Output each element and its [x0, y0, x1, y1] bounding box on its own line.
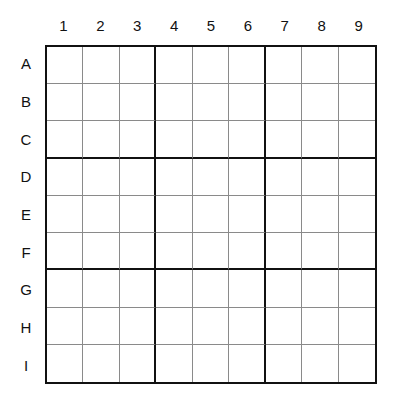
- grid-cell-A2[interactable]: [83, 47, 119, 84]
- grid-cell-I9[interactable]: [339, 345, 375, 382]
- row-label: I: [12, 346, 40, 384]
- grid-cell-D4[interactable]: [156, 159, 192, 196]
- grid-cell-H1[interactable]: [47, 308, 83, 345]
- grid-cell-F2[interactable]: [83, 233, 119, 270]
- column-labels: 123456789: [45, 14, 377, 38]
- grid-cell-I6[interactable]: [229, 345, 265, 382]
- grid-cell-B1[interactable]: [47, 84, 83, 121]
- grid-cell-F7[interactable]: [266, 233, 302, 270]
- grid-cell-C1[interactable]: [47, 121, 83, 158]
- column-label: 9: [340, 14, 377, 38]
- column-label: 8: [303, 14, 340, 38]
- column-label: 6: [229, 14, 266, 38]
- grid-cell-D5[interactable]: [193, 159, 229, 196]
- grid-cell-G4[interactable]: [156, 270, 192, 307]
- grid-cell-A6[interactable]: [229, 47, 265, 84]
- grid-cell-C6[interactable]: [229, 121, 265, 158]
- grid-cell-E5[interactable]: [193, 196, 229, 233]
- row-label: D: [12, 158, 40, 196]
- grid-cell-G6[interactable]: [229, 270, 265, 307]
- grid-cell-H9[interactable]: [339, 308, 375, 345]
- grid-cell-F9[interactable]: [339, 233, 375, 270]
- grid-cell-D7[interactable]: [266, 159, 302, 196]
- grid-cell-I4[interactable]: [156, 345, 192, 382]
- row-label: F: [12, 233, 40, 271]
- grid-cell-E2[interactable]: [83, 196, 119, 233]
- grid-cell-A8[interactable]: [302, 47, 338, 84]
- grid-cell-B7[interactable]: [266, 84, 302, 121]
- grid-cell-G9[interactable]: [339, 270, 375, 307]
- grid-cell-E8[interactable]: [302, 196, 338, 233]
- grid-cell-C2[interactable]: [83, 121, 119, 158]
- grid-cell-F8[interactable]: [302, 233, 338, 270]
- grid-cell-I7[interactable]: [266, 345, 302, 382]
- grid-cell-A5[interactable]: [193, 47, 229, 84]
- grid-cell-B8[interactable]: [302, 84, 338, 121]
- column-label: 7: [266, 14, 303, 38]
- grid-cell-D6[interactable]: [229, 159, 265, 196]
- grid-cell-C5[interactable]: [193, 121, 229, 158]
- row-label: E: [12, 196, 40, 234]
- grid-cell-C7[interactable]: [266, 121, 302, 158]
- grid-cell-I5[interactable]: [193, 345, 229, 382]
- grid-cell-C4[interactable]: [156, 121, 192, 158]
- grid-cell-G3[interactable]: [120, 270, 156, 307]
- grid-cell-E3[interactable]: [120, 196, 156, 233]
- grid-cell-C3[interactable]: [120, 121, 156, 158]
- grid-cell-F1[interactable]: [47, 233, 83, 270]
- grid-cell-B3[interactable]: [120, 84, 156, 121]
- grid-cell-D8[interactable]: [302, 159, 338, 196]
- grid-cell-B6[interactable]: [229, 84, 265, 121]
- row-labels: ABCDEFGHI: [12, 45, 40, 384]
- grid-cell-H4[interactable]: [156, 308, 192, 345]
- grid-cell-E6[interactable]: [229, 196, 265, 233]
- grid-cell-H5[interactable]: [193, 308, 229, 345]
- column-label: 3: [119, 14, 156, 38]
- grid-cell-I2[interactable]: [83, 345, 119, 382]
- grid-cell-E4[interactable]: [156, 196, 192, 233]
- grid-cell-D3[interactable]: [120, 159, 156, 196]
- column-label: 2: [82, 14, 119, 38]
- column-label: 4: [156, 14, 193, 38]
- grid-cell-E9[interactable]: [339, 196, 375, 233]
- grid-cell-E1[interactable]: [47, 196, 83, 233]
- grid-cell-G5[interactable]: [193, 270, 229, 307]
- grid-cell-F6[interactable]: [229, 233, 265, 270]
- grid-cell-C9[interactable]: [339, 121, 375, 158]
- grid-cell-A3[interactable]: [120, 47, 156, 84]
- grid-cell-A1[interactable]: [47, 47, 83, 84]
- grid-cell-H2[interactable]: [83, 308, 119, 345]
- grid-cell-G1[interactable]: [47, 270, 83, 307]
- grid-cell-E7[interactable]: [266, 196, 302, 233]
- column-label: 5: [193, 14, 230, 38]
- column-label: 1: [45, 14, 82, 38]
- sudoku-grid: [45, 45, 377, 384]
- grid-cell-B2[interactable]: [83, 84, 119, 121]
- grid-cell-H3[interactable]: [120, 308, 156, 345]
- grid-cell-G8[interactable]: [302, 270, 338, 307]
- grid-cell-C8[interactable]: [302, 121, 338, 158]
- grid-cell-B9[interactable]: [339, 84, 375, 121]
- grid-cell-D9[interactable]: [339, 159, 375, 196]
- row-label: H: [12, 309, 40, 347]
- grid-cell-H8[interactable]: [302, 308, 338, 345]
- grid-cell-F5[interactable]: [193, 233, 229, 270]
- grid-cell-A9[interactable]: [339, 47, 375, 84]
- row-label: C: [12, 120, 40, 158]
- grid-cell-B5[interactable]: [193, 84, 229, 121]
- grid-cell-G7[interactable]: [266, 270, 302, 307]
- grid-cell-H6[interactable]: [229, 308, 265, 345]
- grid-cell-G2[interactable]: [83, 270, 119, 307]
- grid-cell-I8[interactable]: [302, 345, 338, 382]
- grid-cell-I3[interactable]: [120, 345, 156, 382]
- grid-cell-I1[interactable]: [47, 345, 83, 382]
- grid-cell-D1[interactable]: [47, 159, 83, 196]
- grid-cell-F4[interactable]: [156, 233, 192, 270]
- grid-cell-A7[interactable]: [266, 47, 302, 84]
- grid-cell-D2[interactable]: [83, 159, 119, 196]
- grid-cell-B4[interactable]: [156, 84, 192, 121]
- grid-cell-H7[interactable]: [266, 308, 302, 345]
- row-label: A: [12, 45, 40, 83]
- grid-cell-F3[interactable]: [120, 233, 156, 270]
- grid-cell-A4[interactable]: [156, 47, 192, 84]
